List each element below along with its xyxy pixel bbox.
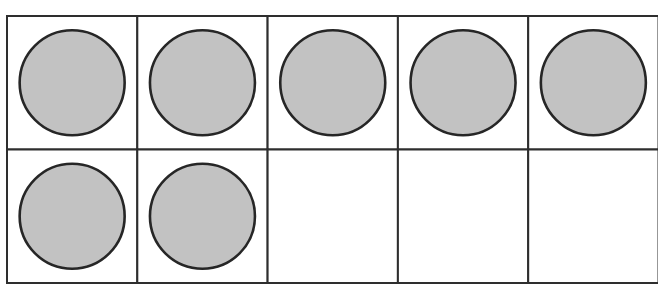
ten-frame-cell — [137, 16, 267, 150]
counter-circle-icon — [20, 164, 125, 269]
counter-circle-icon — [280, 30, 385, 135]
counter-circle-icon — [150, 30, 255, 135]
ten-frame-cell — [7, 150, 137, 284]
counter-circle-icon — [541, 30, 646, 135]
ten-frame-cell — [268, 16, 398, 150]
ten-frame: Ten frame showing 7 — [6, 15, 658, 285]
ten-frame-cell — [528, 150, 658, 284]
counter-circle-icon — [20, 30, 125, 135]
counter-circle-icon — [150, 164, 255, 269]
ten-frame-cell — [398, 16, 528, 150]
ten-frame-cell — [528, 16, 658, 150]
cell-border — [528, 150, 658, 284]
cell-border — [398, 150, 528, 284]
ten-frame-cell — [137, 150, 267, 284]
ten-frame-grid — [6, 15, 658, 287]
ten-frame-cell — [7, 16, 137, 150]
ten-frame-cell — [268, 150, 398, 284]
counter-circle-icon — [411, 30, 516, 135]
cell-border — [268, 150, 398, 284]
ten-frame-cell — [398, 150, 528, 284]
